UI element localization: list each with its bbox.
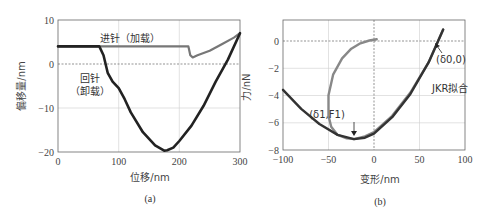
ylabel-b: 力/nN [240, 73, 252, 100]
ytick-a-3: −20 [38, 147, 54, 158]
xtick-a-3: 300 [233, 156, 248, 167]
ytick-a-1: 0 [49, 59, 54, 70]
xtick-a-1: 100 [111, 156, 126, 167]
caption-a: (a) [144, 193, 155, 205]
figure: 10 0 −10 −20 0 100 200 300 位移/nm 偏移量/nm … [0, 0, 480, 218]
annotation-unloading-2: （卸载） [70, 85, 110, 97]
ytick-b-1: −2 [268, 63, 279, 74]
panel-a: 10 0 −10 −20 0 100 200 300 位移/nm 偏移量/nm … [15, 15, 248, 205]
annotation-jkr: JKR拟合 [431, 82, 468, 94]
xtick-b-3: 50 [415, 154, 425, 165]
xtick-b-1: −50 [321, 154, 337, 165]
ytick-a-2: −10 [38, 103, 54, 114]
annotation-delta0: (δ0,0) [436, 54, 466, 65]
ytick-b-2: −4 [268, 90, 279, 101]
xtick-b-2: 0 [372, 154, 377, 165]
ytick-b-0: 0 [274, 36, 279, 47]
caption-b: (b) [374, 196, 386, 208]
ylabel-a: 偏移量/nm [15, 61, 27, 110]
panel-b: 0 −2 −4 −6 −8 −100 −50 0 50 100 变形/nm 力/… [240, 20, 473, 208]
xtick-a-2: 200 [172, 156, 187, 167]
arrow-head-delta1-icon [351, 131, 357, 136]
xtick-a-0: 0 [56, 156, 61, 167]
xtick-b-0: −100 [273, 154, 294, 165]
ytick-b-3: −6 [268, 117, 279, 128]
ytick-a-0: 10 [44, 15, 54, 26]
annotation-unloading-1: 回针 [80, 72, 100, 84]
xtick-b-4: 100 [458, 154, 473, 165]
xlabel-b: 变形/nm [360, 173, 399, 185]
xlabel-a: 位移/nm [130, 171, 169, 183]
annotation-loading: 进针（加载） [100, 32, 160, 44]
annotation-delta1: (δ1,F1) [309, 109, 345, 120]
